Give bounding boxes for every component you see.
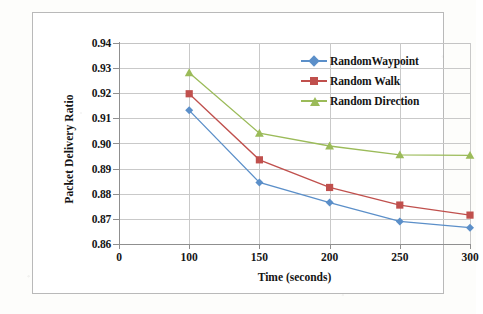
legend-label: Random Walk	[330, 75, 400, 87]
data-point-marker	[326, 184, 333, 191]
series-randomwaypoint	[185, 106, 474, 231]
legend-label: Random Direction	[330, 95, 419, 107]
x-tick-label: 300	[443, 251, 483, 263]
data-point-marker	[466, 212, 473, 219]
legend-swatch-diamond-icon	[301, 55, 327, 67]
data-point-marker	[256, 156, 263, 163]
data-point-marker	[466, 224, 474, 232]
chart-legend: RandomWaypointRandom WalkRandom Directio…	[297, 49, 443, 113]
series-line	[189, 110, 470, 227]
legend-swatch-triangle-icon	[301, 95, 327, 107]
data-point-marker	[326, 199, 334, 207]
data-point-marker	[396, 217, 404, 225]
legend-item: Random Walk	[297, 71, 443, 91]
legend-item: Random Direction	[297, 91, 443, 111]
chart-frame: 0.860.870.880.890.900.910.920.930.94 010…	[32, 12, 444, 294]
data-point-marker	[185, 68, 194, 76]
plot-wrapper: 0.860.870.880.890.900.910.920.930.94 010…	[33, 13, 443, 293]
data-point-marker	[396, 201, 403, 208]
legend-item: RandomWaypoint	[297, 51, 443, 71]
legend-swatch-square-icon	[301, 75, 327, 87]
data-point-marker	[186, 90, 193, 97]
legend-label: RandomWaypoint	[330, 55, 419, 67]
x-tick-mark	[470, 244, 471, 249]
